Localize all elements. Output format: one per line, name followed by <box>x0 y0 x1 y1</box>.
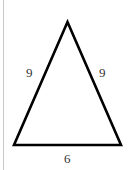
triangle-shape <box>0 0 131 170</box>
right-side-length-label: 9 <box>99 66 106 79</box>
left-side-length-label: 9 <box>26 66 33 79</box>
triangle-outline <box>14 22 121 145</box>
base-length-label: 6 <box>64 152 71 165</box>
triangle-figure: 9 9 6 <box>0 0 131 170</box>
